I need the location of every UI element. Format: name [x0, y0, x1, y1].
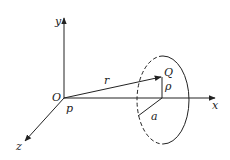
vector-r-label: r — [104, 74, 110, 87]
radius-a-label: a — [151, 110, 158, 123]
origin-label: O — [52, 91, 61, 104]
radius-a-segment — [138, 98, 162, 116]
rho-label: ρ — [164, 80, 172, 93]
x-axis-label: x — [212, 99, 219, 112]
z-axis-label: z — [15, 140, 22, 153]
z-axis — [25, 98, 64, 141]
position-vector-r — [64, 77, 161, 98]
diagram-canvas: y x z O p Q r ρ a — [0, 0, 230, 160]
field-point-label: Q — [164, 66, 173, 79]
origin-point-label: p — [66, 102, 73, 115]
y-axis-label: y — [54, 15, 62, 28]
